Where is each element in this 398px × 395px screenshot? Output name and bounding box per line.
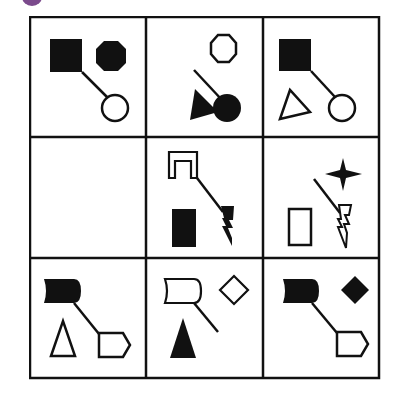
cell-r3c2 [165,276,248,358]
filled-circle-icon [213,94,241,122]
hollow-pentagon-arrow-icon [99,333,130,357]
cell-r1c3 [279,39,355,121]
filled-triangle-icon [170,318,196,358]
cell-r1c1 [50,39,128,121]
filled-square-icon [279,39,311,71]
filled-octagon-icon [96,41,126,71]
hollow-circle-icon [102,95,128,121]
hollow-scroll-icon [165,279,201,303]
hollow-triangle-icon [51,321,75,356]
connector-line [194,303,218,332]
hollow-circle-icon [329,95,355,121]
hollow-octagon-icon [211,35,236,62]
hollow-diamond-icon [220,276,248,304]
cell-r3c3 [283,276,369,356]
filled-diamond-icon [341,276,369,304]
cell-r1c2 [190,35,241,122]
cell-r3c1 [44,279,130,357]
puzzle-grid [29,16,381,380]
connector-line [314,179,340,213]
filled-scroll-icon [283,279,319,303]
cell-r2c2 [169,152,234,247]
hollow-pentagon-arrow-icon [337,332,368,356]
hollow-triangle-icon [280,90,310,119]
cell-r2c3 [289,158,362,248]
filled-rectangle-icon [172,209,196,247]
filled-scroll-icon [44,279,81,303]
filled-lightning-icon [221,206,234,246]
connector-line [312,303,337,333]
connector-line [74,303,99,334]
question-badge [22,0,42,6]
filled-star-icon [325,158,362,191]
connector-line [82,72,108,98]
hollow-lightning-icon [338,205,351,248]
connector-line [311,71,335,97]
hollow-arch-icon [169,152,197,178]
connector-line [197,178,223,212]
filled-square-icon [50,39,82,72]
hollow-rectangle-icon [289,209,311,245]
